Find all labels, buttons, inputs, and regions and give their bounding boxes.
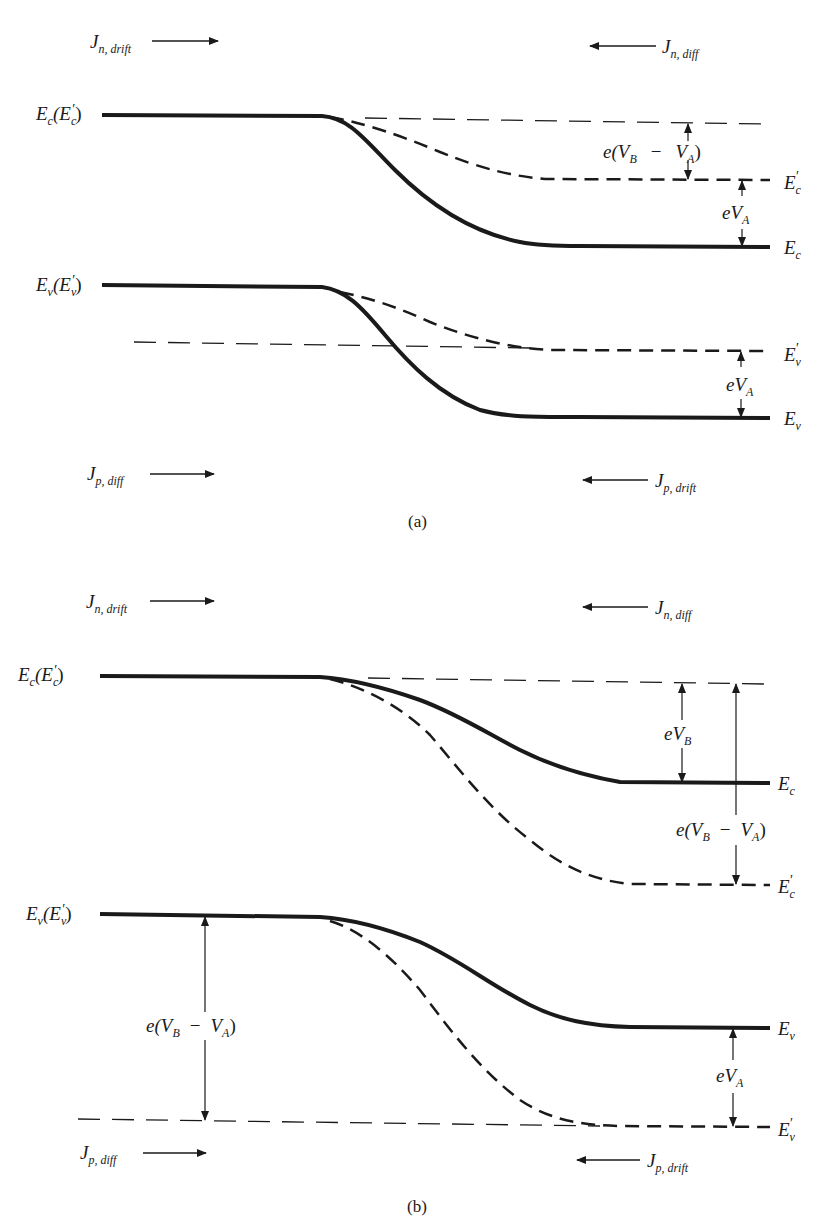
text: V (734, 374, 746, 395)
text: E (784, 172, 796, 193)
valence-reference-dashed (78, 1119, 600, 1126)
label-jp-drift-b: Jp, drift (647, 1151, 688, 1174)
label-ev-right-b: Ev (778, 1019, 795, 1042)
prime: ′ (790, 1116, 793, 1131)
text: e( (146, 1015, 161, 1036)
valence-reference-dashed (134, 342, 530, 348)
panel-a (102, 41, 770, 480)
panel-b (78, 601, 770, 1160)
text: E (18, 664, 30, 685)
text: V (672, 723, 684, 744)
label-ev-right-a: Ev (784, 409, 801, 432)
conduction-band-solid (102, 115, 770, 247)
subscript: n, diff (670, 47, 698, 61)
prime: ′ (796, 341, 799, 356)
text: E (26, 903, 38, 924)
text: V (161, 1015, 173, 1036)
text: (E (53, 274, 71, 295)
text: (E (53, 103, 71, 124)
minus: − (651, 141, 662, 162)
label-right-gap-b: e(VB−VA) (676, 820, 766, 843)
subscript: v (790, 1130, 795, 1144)
label-ev-evprime-left-b: Ev(Ev′) (26, 903, 72, 927)
subscript: n, drift (98, 42, 131, 56)
label-ec-right-b: Ec (778, 774, 795, 797)
subscript: v (796, 355, 801, 369)
text: ) (694, 141, 700, 162)
text: e( (676, 819, 691, 840)
label-ec-right-a: Ec (784, 238, 801, 261)
label-left-gap-b: e(VB−VA) (146, 1016, 236, 1039)
label-jn-diff-b: Jn, diff (655, 598, 691, 621)
prime: ′ (790, 873, 793, 888)
minus: − (720, 819, 731, 840)
text: V (740, 819, 752, 840)
conduction-reference-dashed (365, 118, 765, 124)
label-jn-drift-a: Jn, drift (90, 32, 131, 55)
text: E (778, 1119, 790, 1140)
caption-b: (b) (407, 1198, 427, 1215)
subscript: p, diff (95, 474, 123, 488)
subscript: A (736, 1076, 743, 1090)
text: ) (75, 103, 81, 124)
label-mid-gap-a: eVA (722, 203, 749, 226)
text: V (618, 141, 630, 162)
subscript: A (746, 385, 753, 399)
subscript: n, drift (94, 602, 127, 616)
caption-a: (a) (408, 513, 427, 530)
text: ) (65, 903, 71, 924)
label-jn-drift-b: Jn, drift (86, 592, 127, 615)
text: E (778, 1018, 790, 1039)
valence-band-dashed (340, 292, 770, 351)
text: V (691, 819, 703, 840)
label-evprime-right-b: Ev′ (778, 1117, 793, 1143)
minus: − (190, 1015, 201, 1036)
text: (E (43, 903, 61, 924)
text: E (784, 408, 796, 429)
subscript: B (629, 152, 636, 166)
label-ebv-b: eVB (664, 724, 691, 747)
label-ec-ecprime-left-a: Ec(Ec′) (36, 103, 82, 127)
label-ec-ecprime-left-b: Ec(Ec′) (18, 664, 64, 688)
subscript: A (742, 213, 749, 227)
subscript: p, drift (663, 481, 696, 495)
label-bottom-gap-a: eVA (726, 375, 753, 398)
label-ecprime-right-a: Ec′ (784, 170, 799, 196)
subscript: p, diff (88, 1153, 116, 1167)
subscript: n, diff (663, 608, 691, 622)
subscript: c (790, 887, 795, 901)
label-evprime-right-a: Ev′ (784, 342, 799, 368)
label-ev-evprime-left-a: Ev(Ev′) (36, 274, 82, 298)
subscript: c (796, 183, 801, 197)
conduction-reference-dashed (368, 678, 765, 684)
subscript: B (684, 734, 691, 748)
label-ecprime-right-b: Ec′ (778, 874, 793, 900)
text: ) (229, 1015, 235, 1036)
text: V (730, 202, 742, 223)
text: V (724, 1065, 736, 1086)
text: ) (759, 819, 765, 840)
text: E (778, 876, 790, 897)
valence-band-dashed (330, 921, 770, 1127)
text: E (784, 237, 796, 258)
subscript: p, drift (655, 1161, 688, 1175)
text: E (778, 773, 790, 794)
text: (E (35, 664, 53, 685)
label-bottom-gap-b: eVA (716, 1066, 743, 1089)
text: ) (75, 274, 81, 295)
text: V (675, 141, 687, 162)
subscript: B (702, 830, 709, 844)
text: E (784, 344, 796, 365)
subscript: c (796, 248, 801, 262)
subscript: c (790, 784, 795, 798)
text: E (36, 274, 48, 295)
text: V (210, 1015, 222, 1036)
label-top-gap-a: e(VB−VA) (603, 142, 701, 165)
subscript: B (172, 1026, 179, 1040)
text: e( (603, 141, 618, 162)
label-jp-drift-a: Jp, drift (655, 471, 696, 494)
prime: ′ (796, 169, 799, 184)
label-jn-diff-a: Jn, diff (662, 37, 698, 60)
label-jp-diff-b: Jp, diff (80, 1143, 116, 1166)
text: ) (57, 664, 63, 685)
